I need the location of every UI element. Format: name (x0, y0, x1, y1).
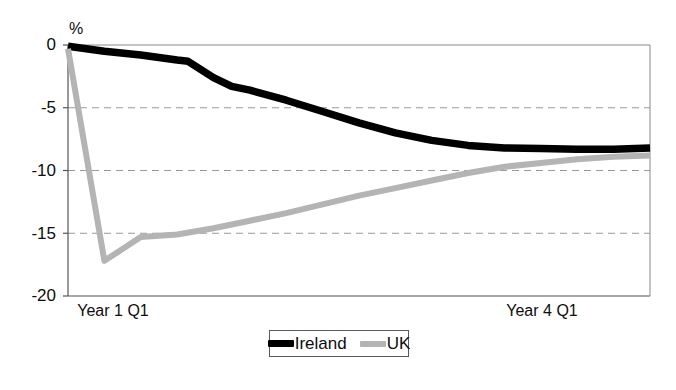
y-axis-unit-label: % (69, 20, 83, 37)
series-line-uk (68, 49, 650, 261)
y-tick-label: 0 (47, 35, 56, 54)
legend-label-uk: UK (387, 335, 411, 352)
y-tick-label: -15 (31, 224, 56, 243)
x-tick-label-left: Year 1 Q1 (77, 302, 149, 319)
y-tick-label: -10 (31, 161, 56, 180)
series-line-ireland (68, 46, 650, 149)
y-tick-marks (63, 45, 68, 296)
legend-swatch-ireland (268, 340, 294, 347)
series-paths (68, 46, 650, 261)
legend-item-uk: UK (360, 335, 411, 352)
chart-container: 0-5-10-15-20 % Year 1 Q1 Year 4 Q1 Irela… (0, 0, 676, 390)
y-tick-labels: 0-5-10-15-20 (31, 35, 56, 305)
y-tick-label: -20 (31, 286, 56, 305)
legend-swatch-uk (360, 341, 386, 347)
legend-item-ireland: Ireland (268, 335, 347, 352)
x-tick-label-right: Year 4 Q1 (506, 302, 578, 319)
chart-legend: Ireland UK (269, 330, 409, 357)
y-tick-label: -5 (41, 98, 56, 117)
legend-label-ireland: Ireland (295, 335, 347, 352)
